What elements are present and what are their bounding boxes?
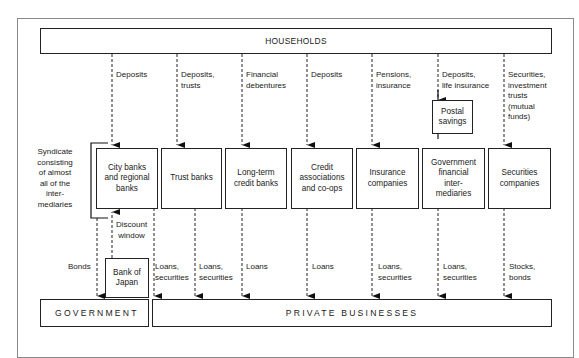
inflow-label-trust-banks: Deposits,trusts	[181, 70, 214, 91]
syndicate-note: Syndicateconsistingof almostall of thein…	[30, 147, 80, 210]
outflow-label-government-fin: Loans,securities	[443, 262, 477, 283]
inflow-label-credit: Deposits	[311, 70, 342, 81]
outflow-label-insurance: Loans,securities	[378, 262, 412, 283]
discount-window-label: Discountwindow	[116, 220, 147, 241]
households-label: HOUSEHOLDS	[265, 36, 327, 47]
long-term-credit-banks-box: Long-termcredit banks	[225, 148, 287, 209]
outflow-label-city-banks: Loans,securities	[155, 262, 189, 283]
government-label: GOVERNMENT	[55, 308, 139, 319]
government-box: GOVERNMENT	[40, 299, 149, 327]
outflow-label-trust-banks: Loans,securities	[199, 262, 233, 283]
outflow-label-credit: Loans	[312, 262, 334, 273]
government-financial-intermediaries-box: Governmentfinancialinter-mediaries	[422, 148, 485, 209]
securities-companies-box: Securitiescompanies	[488, 148, 551, 209]
outflow-label-long-term: Loans	[246, 262, 268, 273]
city-regional-banks-box: City banksand regionalbanks	[96, 148, 158, 209]
inflow-label-government-fin: Deposits,life insurance	[442, 70, 489, 91]
inflow-label-securities: Securities,investmenttrusts(mutualfunds)	[508, 70, 547, 123]
outflow-label-securities: Stocks,bonds	[509, 262, 535, 283]
inflow-label-long-term: Financialdebentures	[246, 70, 286, 91]
credit-associations-box: Creditassociationsand co-ops	[291, 148, 353, 209]
bank-of-japan-box: Bank ofJapan	[105, 258, 149, 298]
private-businesses-box: PRIVATE BUSINESSES	[152, 299, 552, 327]
private-businesses-label: PRIVATE BUSINESSES	[286, 308, 418, 319]
trust-banks-box: Trust banks	[161, 148, 222, 209]
inflow-label-insurance: Pensions,insurance	[376, 70, 411, 91]
households-box: HOUSEHOLDS	[40, 28, 552, 54]
inflow-label-city-banks: Deposits	[116, 70, 147, 81]
insurance-companies-box: Insurancecompanies	[356, 148, 419, 209]
bonds-label: Bonds	[68, 262, 91, 273]
postal-savings-box: Postalsavings	[432, 100, 473, 134]
